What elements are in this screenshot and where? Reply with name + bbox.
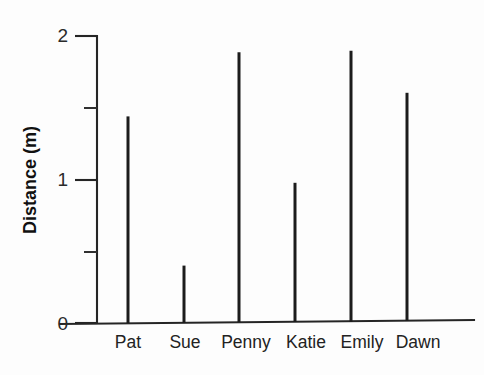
x-label-penny: Penny xyxy=(221,332,271,352)
y-tick-label-1: 1 xyxy=(57,169,68,190)
x-label-sue: Sue xyxy=(169,332,200,352)
x-label-dawn: Dawn xyxy=(396,332,441,352)
y-tick-label-0: 0 xyxy=(57,313,68,334)
distance-bar-chart: 2 1 0 Distance (m) Pat Sue Penny Katie E… xyxy=(0,0,484,375)
y-tick-label-2: 2 xyxy=(57,25,68,46)
y-axis-title: Distance (m) xyxy=(20,126,40,234)
x-axis-line xyxy=(60,320,474,324)
y-axis-major-ticks xyxy=(75,36,97,323)
x-label-katie: Katie xyxy=(286,332,326,352)
x-label-pat: Pat xyxy=(115,332,141,352)
chart-container: 2 1 0 Distance (m) Pat Sue Penny Katie E… xyxy=(0,0,484,375)
x-axis-category-labels: Pat Sue Penny Katie Emily Dawn xyxy=(115,332,441,352)
bar-series xyxy=(128,51,407,323)
x-label-emily: Emily xyxy=(341,332,384,352)
